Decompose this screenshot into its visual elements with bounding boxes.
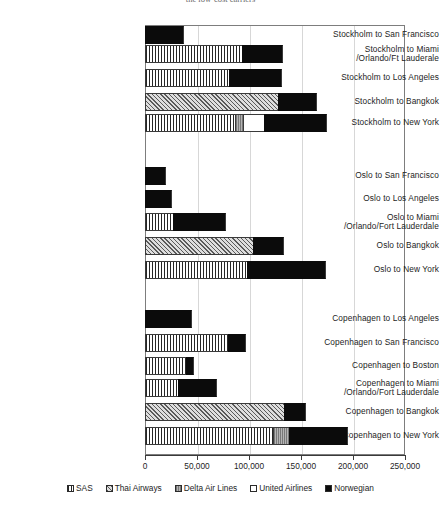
bar-segment-sas bbox=[145, 379, 178, 397]
row-label-line: /Orlando/Fort Lauderdale bbox=[298, 222, 439, 231]
chart-row: Copenhagen to New York bbox=[0, 427, 441, 445]
x-tick bbox=[353, 455, 354, 460]
stacked-bar bbox=[145, 357, 194, 375]
bar-segment-sas bbox=[145, 213, 173, 231]
bar-segment-norwegian bbox=[289, 427, 348, 445]
row-label-line: Stockholm to Bangkok bbox=[298, 97, 439, 106]
stacked-bar bbox=[145, 403, 306, 421]
chart-row: Copenhagen to Miami/Orlando/Fort Lauderd… bbox=[0, 379, 441, 397]
legend-item-sas[interactable]: SAS bbox=[67, 484, 93, 493]
x-tick-label: 100,000 bbox=[234, 461, 264, 471]
chart-row: Stockholm to New York bbox=[0, 114, 441, 132]
x-tick-label: 200,000 bbox=[338, 461, 368, 471]
stacked-bar bbox=[145, 379, 217, 397]
x-axis-line bbox=[145, 455, 405, 456]
stacked-bar bbox=[145, 114, 327, 132]
bar-segment-thai-airways bbox=[145, 93, 278, 111]
row-label: Copenhagen to Bangkok bbox=[298, 407, 441, 416]
x-tick-label: 150,000 bbox=[286, 461, 316, 471]
stacked-bar bbox=[145, 93, 317, 111]
row-label-line: Stockholm to Los Angeles bbox=[298, 73, 439, 82]
bar-segment-norwegian bbox=[145, 190, 172, 208]
bar-segment-norwegian bbox=[278, 93, 316, 111]
row-label: Stockholm to Miami/Orlando/Ft Lauderale bbox=[298, 45, 441, 64]
x-tick bbox=[197, 455, 198, 460]
stacked-bar bbox=[145, 427, 348, 445]
x-tick-label: 50,000 bbox=[184, 461, 209, 471]
legend-item-delta-air-lines[interactable]: Delta Air Lines bbox=[175, 484, 238, 493]
stacked-bar bbox=[145, 334, 246, 352]
chart-row: Copenhagen to Los Angeles bbox=[0, 310, 441, 328]
row-label-line: Copenhagen to Boston bbox=[298, 361, 439, 370]
row-label: Oslo to Bangkok bbox=[298, 241, 441, 250]
bar-segment-norwegian bbox=[264, 114, 327, 132]
chart-row: Stockholm to Los Angeles bbox=[0, 69, 441, 87]
row-label-line: Oslo to Los Angeles bbox=[298, 194, 439, 203]
stacked-bar bbox=[145, 237, 284, 255]
chart-row: Oslo to San Francisco bbox=[0, 167, 441, 185]
stacked-bar bbox=[145, 167, 166, 185]
bar-segment-thai-airways bbox=[145, 237, 253, 255]
row-label-line: /Orlando/Ft Lauderale bbox=[298, 54, 439, 63]
legend-label: Norwegian bbox=[334, 484, 374, 493]
bar-segment-norwegian bbox=[178, 379, 217, 397]
stacked-bar bbox=[145, 261, 326, 279]
bar-chart: the low-cost carriers Stockholm to San F… bbox=[0, 0, 441, 515]
legend-item-norwegian[interactable]: Norwegian bbox=[325, 484, 374, 493]
bar-segment-norwegian bbox=[145, 310, 192, 328]
legend-label: SAS bbox=[76, 484, 93, 493]
bar-segment-norwegian bbox=[242, 45, 283, 63]
row-label-line: Stockholm to San Francisco bbox=[298, 30, 439, 39]
row-label: Copenhagen to San Francisco bbox=[298, 338, 441, 347]
legend-label: United Airlines bbox=[259, 484, 312, 493]
legend-swatch-thai-airways bbox=[106, 485, 113, 492]
x-tick bbox=[249, 455, 250, 460]
bar-segment-sas bbox=[145, 69, 229, 87]
row-label: Stockholm to Bangkok bbox=[298, 97, 441, 106]
bar-segment-norwegian bbox=[145, 167, 166, 185]
bar-segment-sas bbox=[145, 114, 235, 132]
chart-title: the low-cost carriers bbox=[0, 0, 441, 3]
bar-segment-norwegian bbox=[253, 237, 284, 255]
bar-segment-sas bbox=[145, 357, 186, 375]
chart-row: Oslo to Miami/Orlando/Fort Lauderdale bbox=[0, 213, 441, 231]
bar-segment-norwegian bbox=[228, 334, 246, 352]
bar-segment-norwegian bbox=[145, 26, 184, 44]
legend-swatch-sas bbox=[67, 485, 74, 492]
legend-item-united-airlines[interactable]: United Airlines bbox=[250, 484, 312, 493]
legend-item-thai-airways[interactable]: Thai Airways bbox=[106, 484, 162, 493]
row-label-line: Oslo to Bangkok bbox=[298, 241, 439, 250]
row-label-line: Oslo to San Francisco bbox=[298, 171, 439, 180]
chart-row: Oslo to New York bbox=[0, 261, 441, 279]
row-label: Oslo to San Francisco bbox=[298, 171, 441, 180]
row-label: Oslo to Los Angeles bbox=[298, 194, 441, 203]
stacked-bar bbox=[145, 45, 283, 63]
x-tick-label: 0 bbox=[143, 461, 148, 471]
legend-swatch-united-airlines bbox=[250, 485, 257, 492]
row-label-line: Copenhagen to Bangkok bbox=[298, 407, 439, 416]
chart-legend: SASThai AirwaysDelta Air LinesUnited Air… bbox=[0, 484, 441, 493]
stacked-bar bbox=[145, 26, 184, 44]
row-label-line: Copenhagen to Los Angeles bbox=[298, 314, 439, 323]
bar-segment-norwegian bbox=[173, 213, 226, 231]
row-label: Copenhagen to Boston bbox=[298, 361, 441, 370]
chart-row: Copenhagen to Boston bbox=[0, 357, 441, 375]
legend-label: Thai Airways bbox=[115, 484, 162, 493]
chart-row: Stockholm to San Francisco bbox=[0, 26, 441, 44]
bar-segment-norwegian bbox=[229, 69, 282, 87]
row-label: Stockholm to Los Angeles bbox=[298, 73, 441, 82]
row-label-line: Copenhagen to San Francisco bbox=[298, 338, 439, 347]
x-tick bbox=[405, 455, 406, 460]
bar-segment-sas bbox=[145, 334, 228, 352]
bar-segment-norwegian bbox=[247, 261, 326, 279]
bar-segment-sas bbox=[145, 427, 273, 445]
row-label: Copenhagen to Los Angeles bbox=[298, 314, 441, 323]
bar-segment-united-airlines bbox=[243, 114, 264, 132]
x-tick-label: 250,000 bbox=[390, 461, 420, 471]
chart-row: Oslo to Bangkok bbox=[0, 237, 441, 255]
row-label-line: /Orlando/Fort Lauderdale bbox=[298, 388, 439, 397]
chart-row: Copenhagen to Bangkok bbox=[0, 403, 441, 421]
chart-row: Oslo to Los Angeles bbox=[0, 190, 441, 208]
stacked-bar bbox=[145, 190, 172, 208]
x-tick bbox=[145, 455, 146, 460]
